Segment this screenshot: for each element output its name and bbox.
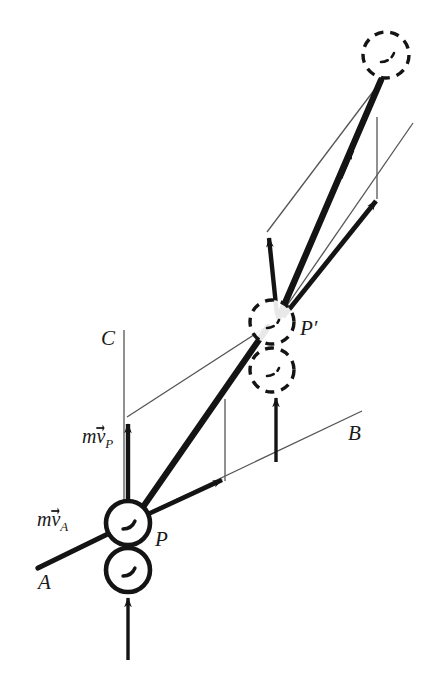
axis-a-label: A [38,570,51,595]
physics-diagram: C B A P P′ mv P mv A [0,0,445,687]
resultant-arrow-upper [279,80,381,317]
diagram-canvas [0,0,445,687]
point-p-label: P [155,527,168,552]
momentum-p-mass: m [82,425,96,447]
momentum-a-subscript: A [60,519,68,534]
momentum-p-label: mv P [82,425,113,452]
momentum-a-label: mv A [37,508,68,535]
upper-parallelogram-b-line [277,123,413,320]
vector-overbar-arrow-icon [96,423,105,432]
ball-pprime-upper [250,300,294,344]
momentum-a-vector-group: v [51,508,60,531]
lower-parallelogram-top-side [127,327,266,417]
axis-b-label: B [348,421,361,446]
vector-overbar-arrow-icon [51,506,60,515]
axis-c-label: C [101,326,115,351]
ball-p-upper [106,501,150,545]
momentum-a-mass: m [37,508,51,530]
point-p-prime-label: P′ [300,316,317,341]
momentum-b2-arrow [283,201,376,317]
ball-pprime-lower [250,348,294,392]
momentum-p-subscript: P [105,436,113,451]
ball-p-lower [106,548,150,592]
ball-final-top [363,32,409,78]
momentum-p-vector-group: v [96,425,105,448]
